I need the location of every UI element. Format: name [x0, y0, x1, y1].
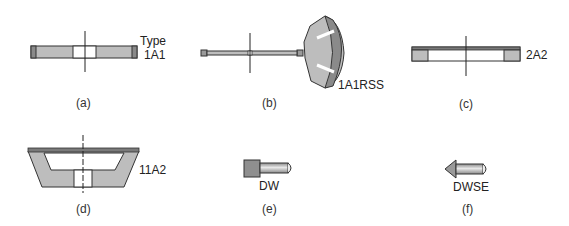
caption-f: (f)	[462, 203, 473, 215]
wheel-2a2	[412, 36, 520, 76]
caption-d: (d)	[76, 203, 91, 215]
label-11a2: 11A2	[139, 164, 166, 176]
label-2a2: 2A2	[526, 49, 547, 61]
wheel-11a2	[28, 135, 139, 193]
tool-dw	[244, 160, 291, 177]
label-dw: DW	[259, 180, 279, 192]
caption-c: (c)	[459, 98, 473, 110]
caption-b: (b)	[262, 97, 277, 109]
tool-dwse	[445, 160, 486, 178]
label-dwse: DWSE	[453, 181, 489, 193]
caption-e: (e)	[262, 203, 277, 215]
wheel-1a1	[31, 31, 137, 72]
label-type: Type	[140, 35, 166, 47]
caption-a: (a)	[76, 97, 91, 109]
label-1a1rss: 1A1RSS	[338, 79, 384, 91]
wheel-1a1rss	[201, 16, 344, 88]
label-1a1: 1A1	[144, 49, 165, 61]
